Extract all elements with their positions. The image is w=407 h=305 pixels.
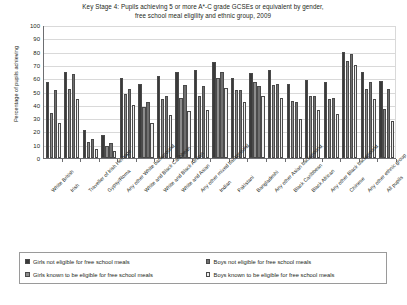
bar-boys_eligible [336, 114, 339, 158]
bar-group [44, 26, 63, 158]
x-axis-tick [62, 159, 63, 162]
bar-group [137, 26, 156, 158]
bar-boys_eligible [58, 123, 61, 158]
bar-group [341, 26, 360, 158]
legend-item-boys-not-eligible: Boys not eligible for free school meals [206, 259, 387, 265]
x-axis-label-pakistani: Pakistani [236, 174, 255, 193]
chart-legend: Girls not eligible for free school meals… [19, 252, 387, 284]
bar-girls_eligible [365, 89, 368, 158]
bar-group [100, 26, 119, 158]
bar-girls_eligible [87, 142, 90, 158]
bar-girls_not_eligible [212, 62, 215, 158]
bar-girls_eligible [346, 61, 349, 158]
bar-boys_not_eligible [109, 143, 112, 158]
bar-boys_eligible [76, 99, 79, 158]
bar-group [118, 26, 137, 158]
bar-group [378, 26, 397, 158]
legend-swatch-icon-girls-not-eligible [25, 259, 30, 264]
bar-group [81, 26, 100, 158]
legend-item-girls-eligible: Girls known to be eligible for free scho… [25, 272, 206, 278]
chart-title-line-2: free school meal eligility and ethnic gr… [0, 12, 406, 21]
y-axis-tick-90: 90 [18, 36, 40, 42]
chart-title-line-1: Key Stage 4: Pupils achieving 5 or more … [0, 3, 406, 12]
bar-boys_not_eligible [72, 74, 75, 158]
bar-boys_eligible [354, 65, 357, 158]
x-axis-tick [266, 159, 267, 162]
legend-label-girls-not-eligible: Girls not eligible for free school meals [33, 259, 130, 265]
bar-girls_eligible [68, 89, 71, 158]
bar-boys_not_eligible [257, 86, 260, 158]
bar-boys_eligible [280, 98, 283, 158]
bar-groups [44, 26, 396, 158]
bar-girls_not_eligible [342, 52, 345, 158]
bar-girls_not_eligible [101, 135, 104, 158]
bar-girls_not_eligible [231, 78, 234, 158]
bar-boys_not_eligible [91, 139, 94, 158]
bar-girls_not_eligible [361, 72, 364, 158]
legend-item-boys-eligible: Boys known to be eligible for free schoo… [206, 272, 387, 278]
bar-boys_eligible [299, 119, 302, 158]
bar-girls_not_eligible [120, 78, 123, 158]
bar-boys_not_eligible [350, 54, 353, 158]
bar-group [285, 26, 304, 158]
y-axis-tick-labels: 0102030405060708090100 [18, 26, 40, 159]
bar-boys_not_eligible [332, 98, 335, 158]
bar-boys_eligible [150, 123, 153, 158]
bar-group [303, 26, 322, 158]
bar-group [174, 26, 193, 158]
legend-swatch-icon-girls-eligible [25, 272, 30, 277]
bar-girls_not_eligible [175, 72, 178, 158]
bar-group [266, 26, 285, 158]
bar-boys_eligible [113, 151, 116, 158]
bar-boys_not_eligible [276, 84, 279, 158]
bar-girls_eligible [383, 109, 386, 158]
x-axis-tick [99, 159, 100, 162]
x-axis-label-indian: Indian [218, 179, 232, 193]
x-axis-tick [136, 159, 137, 162]
y-axis-tick-0: 0 [18, 156, 40, 162]
bar-group [359, 26, 378, 158]
legend-label-boys-not-eligible: Boys not eligible for free school meals [214, 259, 312, 265]
bar-boys_not_eligible [295, 102, 298, 158]
chart-title: Key Stage 4: Pupils achieving 5 or more … [0, 3, 406, 20]
bar-boys_eligible [95, 149, 98, 158]
y-axis-tick-40: 40 [18, 103, 40, 109]
bar-girls_not_eligible [324, 82, 327, 158]
x-axis-label-all-pupils: All pupils [385, 174, 404, 193]
bar-girls_not_eligible [46, 82, 49, 158]
x-axis-tick [80, 159, 81, 162]
bar-group [155, 26, 174, 158]
x-axis-tick [210, 159, 211, 162]
bar-girls_not_eligible [138, 84, 141, 158]
x-axis-ticks [43, 159, 396, 162]
bar-boys_not_eligible [387, 89, 390, 158]
bar-group [322, 26, 341, 158]
bar-girls_not_eligible [83, 130, 86, 158]
bar-girls_eligible [291, 101, 294, 158]
bar-boys_eligible [391, 121, 394, 158]
bar-group [229, 26, 248, 158]
bar-girls_eligible [235, 90, 238, 158]
legend-swatch-icon-boys-eligible [206, 272, 211, 277]
bar-boys_not_eligible [202, 86, 205, 158]
bar-boys_eligible [261, 96, 264, 159]
x-axis-tick [377, 159, 378, 162]
bar-group [248, 26, 267, 158]
bar-girls_eligible [105, 146, 108, 158]
x-axis-tick [285, 159, 286, 162]
bar-boys_eligible [224, 88, 227, 158]
bar-boys_eligible [132, 105, 135, 158]
plot-area [43, 26, 396, 159]
legend-label-girls-eligible: Girls known to be eligible for free scho… [33, 272, 153, 278]
plot-area-wrapper: Percentage of pupils achieving 010203040… [0, 26, 406, 166]
bar-group [63, 26, 82, 158]
bar-group [211, 26, 230, 158]
x-axis-category-labels: White BritishIrishTraveller of Irish Her… [43, 189, 396, 261]
y-axis-tick-10: 10 [18, 143, 40, 149]
bar-girls_not_eligible [287, 84, 290, 158]
bar-boys_eligible [206, 110, 209, 158]
x-axis-label-irish: Irish [69, 182, 80, 193]
y-axis-tick-70: 70 [18, 63, 40, 69]
bar-boys_not_eligible [146, 102, 149, 158]
